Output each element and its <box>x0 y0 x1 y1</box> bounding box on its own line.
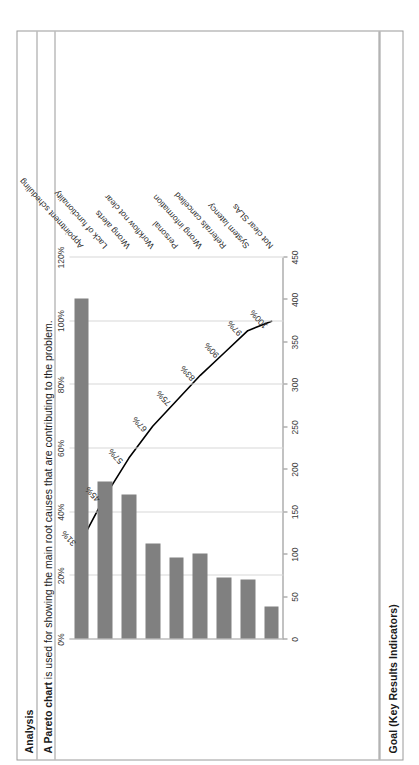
pareto-chart: 0501001502002503003504004500%20%40%60%80… <box>61 223 361 723</box>
chart-cell: 0501001502002503003504004500%20%40%60%80… <box>55 31 378 759</box>
analysis-text-cell: A Pareto chart is used for showing the m… <box>37 314 55 759</box>
table-row-chart: 0501001502002503003504004500%20%40%60%80… <box>55 31 379 759</box>
bar <box>97 481 112 638</box>
table-row-analysis-text: A Pareto chart is used for showing the m… <box>37 31 55 759</box>
goal-header-label: Goal (Key Results Indicators) <box>386 604 398 753</box>
analysis-header-cell: Analysis <box>18 703 36 759</box>
value-axis-label: 400 <box>289 292 299 306</box>
percent-axis-label: 40% <box>55 503 65 520</box>
value-axis-tick <box>283 383 287 384</box>
table-row-analysis-header: Analysis <box>17 31 37 759</box>
bar <box>74 298 89 638</box>
analysis-description-rest: is used for showing the main root causes… <box>41 320 53 682</box>
value-axis-tick <box>283 256 287 257</box>
bar <box>240 579 255 638</box>
percent-axis-label: 80% <box>55 376 65 393</box>
value-axis-label: 50 <box>289 592 299 601</box>
value-axis-label: 350 <box>289 335 299 349</box>
bar <box>121 494 136 638</box>
value-axis-label: 200 <box>289 462 299 476</box>
value-axis-tick <box>283 426 287 427</box>
cumulative-percent-label: 83% <box>177 363 196 382</box>
analysis-table: Analysis A Pareto chart is used for show… <box>16 30 403 760</box>
table-row-goal-header: Goal (Key Results Indicators) <box>379 31 402 759</box>
value-axis-tick <box>283 341 287 342</box>
percent-axis-label: 0% <box>55 633 65 645</box>
bar <box>216 577 231 638</box>
goal-header-cell: Goal (Key Results Indicators) <box>382 598 400 759</box>
cumulative-percent-label: 57% <box>106 446 125 465</box>
analysis-description-bold: A Pareto chart <box>41 682 53 753</box>
value-axis-tick <box>283 511 287 512</box>
value-axis-label: 0 <box>289 637 299 642</box>
screenshot-page: Analysis A Pareto chart is used for show… <box>0 0 419 765</box>
bar <box>145 543 160 638</box>
percent-axis-label: 100% <box>55 310 65 332</box>
value-axis-label: 250 <box>289 420 299 434</box>
value-axis-label: 300 <box>289 377 299 391</box>
percent-axis-label: 120% <box>55 246 65 268</box>
value-axis-tick <box>283 298 287 299</box>
value-axis-tick <box>283 596 287 597</box>
value-axis-label: 100 <box>289 547 299 561</box>
cumulative-percent-label: 100% <box>247 307 269 330</box>
pareto-plot-area: 0501001502002503003504004500%20%40%60%80… <box>69 257 283 639</box>
cumulative-percent-label: 90% <box>201 341 220 360</box>
analysis-header-label: Analysis <box>22 709 34 753</box>
gridline <box>69 447 283 448</box>
cumulative-percent-label: 75% <box>154 389 173 408</box>
cumulative-percent-label: 97% <box>225 319 244 338</box>
gridline <box>69 320 283 321</box>
bar <box>264 606 279 638</box>
bar <box>169 557 184 638</box>
value-axis-tick <box>283 468 287 469</box>
value-axis-tick <box>283 638 287 639</box>
value-axis-label: 150 <box>289 505 299 519</box>
analysis-description: A Pareto chart is used for showing the m… <box>41 320 53 753</box>
cumulative-percent-label: 67% <box>130 414 149 433</box>
percent-axis-label: 20% <box>55 567 65 584</box>
gridline <box>69 256 283 257</box>
gridline <box>69 383 283 384</box>
bar <box>192 553 207 638</box>
percent-axis-label: 60% <box>55 439 65 456</box>
document-page: Analysis A Pareto chart is used for show… <box>0 0 419 765</box>
value-axis-tick <box>283 553 287 554</box>
value-axis-label: 450 <box>289 250 299 264</box>
